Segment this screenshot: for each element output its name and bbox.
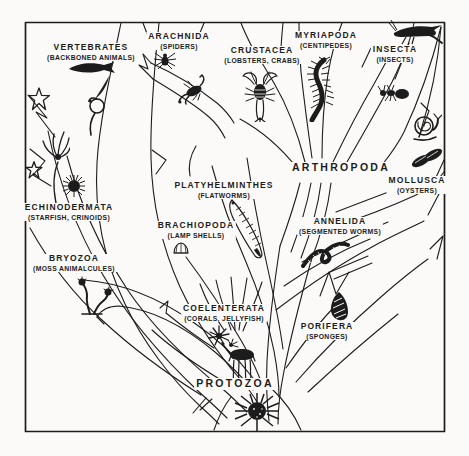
taxon-name: ARACHNIDA <box>148 32 209 42</box>
snail-icon <box>410 110 442 142</box>
taxon-common-name: (LOBSTERS, CRABS) <box>224 57 299 65</box>
spider-icon <box>153 50 177 70</box>
label-platyhelminthes: PLATYHELMINTHES (FLATWORMS) <box>173 181 276 199</box>
taxon-name: ECHINODERMATA <box>25 203 114 213</box>
taxon-common-name: (SEGMENTED WORMS) <box>299 228 381 236</box>
taxon-common-name: (LAMP SHELLS) <box>158 232 234 240</box>
taxon-name: PORIFERA <box>301 322 354 332</box>
taxon-common-name: (CORALS, JELLYFISH) <box>183 315 265 323</box>
label-crustacea: CRUSTACEA (LOBSTERS, CRABS) <box>222 46 301 64</box>
segmented-worm-icon <box>300 238 350 270</box>
taxon-name: INSECTA <box>373 45 417 55</box>
radiolarian-icon <box>231 392 283 432</box>
label-protozoa: PROTOZOA <box>194 378 276 390</box>
taxon-common-name: (FLATWORMS) <box>175 192 274 200</box>
label-bryozoa: BRYOZOA (MOSS ANIMALCULES) <box>31 254 117 272</box>
sponge-icon <box>326 290 352 322</box>
taxon-common-name: (OYSTERS) <box>389 187 446 195</box>
bryozoan-icon <box>72 276 114 316</box>
taxon-name: PROTOZOA <box>196 378 274 390</box>
label-annelida: ANNELIDA (SEGMENTED WORMS) <box>297 217 383 235</box>
taxon-name: VERTEBRATES <box>47 43 135 53</box>
taxon-common-name: (BACKBONED ANIMALS) <box>47 54 135 62</box>
taxon-common-name: (MOSS ANIMALCULES) <box>33 265 115 273</box>
taxon-name: COELENTERATA <box>183 304 265 314</box>
taxon-common-name: (STARFISH, CRINOIDS) <box>25 214 114 222</box>
label-arthropoda: ARTHROPODA <box>290 162 392 174</box>
scorpion-icon <box>177 73 211 105</box>
oyster-icon <box>410 146 444 170</box>
taxon-name: ANNELIDA <box>299 217 381 227</box>
taxon-common-name: (SPONGES) <box>301 333 354 341</box>
taxon-name: MOLLUSCA <box>389 176 446 186</box>
label-insecta: INSECTA (INSECTS) <box>371 45 419 63</box>
taxon-name: MYRIAPODA <box>295 31 357 41</box>
label-arachnida: ARACHNIDA (SPIDERS) <box>146 32 211 50</box>
taxon-common-name: (CENTIPEDES) <box>295 42 357 50</box>
taxon-name: ARTHROPODA <box>292 162 390 174</box>
label-coelenterata: COELENTERATA (CORALS, JELLYFISH) <box>181 304 267 322</box>
lamprey-icon <box>80 92 110 136</box>
centipede-icon <box>302 56 340 122</box>
ant-icon <box>377 84 411 102</box>
label-vertebrates: VERTEBRATES (BACKBONED ANIMALS) <box>45 43 137 61</box>
lamp-shell-icon <box>172 241 190 256</box>
label-brachiopoda: BRACHIOPODA (LAMP SHELLS) <box>156 221 236 239</box>
label-porifera: PORIFERA (SPONGES) <box>299 322 356 340</box>
fish-icon <box>66 60 122 76</box>
label-mollusca: MOLLUSCA (OYSTERS) <box>387 176 448 194</box>
grasshopper-icon <box>388 17 446 45</box>
taxon-common-name: (SPIDERS) <box>148 43 209 51</box>
taxon-common-name: (INSECTS) <box>373 56 417 64</box>
taxon-name: BRYOZOA <box>33 254 115 264</box>
taxon-name: BRACHIOPODA <box>158 221 234 231</box>
crayfish-icon <box>240 70 280 122</box>
sea-urchin-icon <box>61 174 87 198</box>
taxon-name: CRUSTACEA <box>224 46 299 56</box>
animal-kingdom-tree-figure: VERTEBRATES (BACKBONED ANIMALS) ARACHNID… <box>0 0 469 456</box>
label-myriapoda: MYRIAPODA (CENTIPEDES) <box>293 31 359 49</box>
starfish-icon <box>27 86 51 112</box>
label-echinodermata: ECHINODERMATA (STARFISH, CRINOIDS) <box>23 203 116 221</box>
taxon-name: PLATYHELMINTHES <box>175 181 274 191</box>
